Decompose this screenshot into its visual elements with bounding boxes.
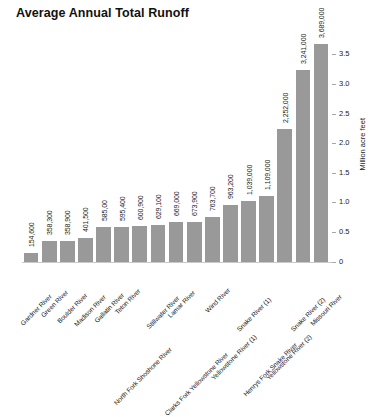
- bar-slot: 669,000: [167, 40, 185, 262]
- bar: [187, 222, 202, 262]
- bar: [314, 44, 329, 262]
- y-axis: 00.51.01.52.02.53.03.5: [332, 40, 358, 262]
- bar: [277, 129, 292, 262]
- bar: [223, 205, 238, 262]
- bar: [259, 196, 274, 262]
- bar: [205, 217, 220, 262]
- bar-value-label: 1,039,000: [246, 164, 253, 194]
- bar-value-label: 401,500: [82, 208, 89, 233]
- bar-slot: 154,600: [22, 40, 40, 262]
- y-axis-tick-label: 3.0: [339, 79, 349, 88]
- bar-slot: 629,100: [149, 40, 167, 262]
- y-axis-tick-label: 0: [339, 257, 343, 266]
- bar-value-label: 629,100: [155, 194, 162, 219]
- bar: [60, 241, 75, 262]
- bar-value-label: 763,700: [209, 186, 216, 211]
- bar-value-label: 1,109,000: [264, 160, 271, 190]
- y-axis-tick-mark: [332, 114, 336, 115]
- bar: [132, 226, 147, 262]
- y-axis-tick-mark: [332, 262, 336, 263]
- bar-value-label: 358,900: [64, 210, 71, 235]
- x-axis-label: Wind River: [204, 286, 231, 313]
- y-axis-tick-mark: [332, 232, 336, 233]
- x-axis-label: Snake River (1): [235, 296, 272, 333]
- y-axis-tick-label: 1.5: [339, 168, 349, 177]
- bar-slot: 595,400: [113, 40, 131, 262]
- y-axis-tick-mark: [332, 54, 336, 55]
- y-axis-tick-label: 2.5: [339, 109, 349, 118]
- bar-slot: 358,900: [58, 40, 76, 262]
- bar-slot: 600,900: [131, 40, 149, 262]
- bar-slot: 673,900: [185, 40, 203, 262]
- bar: [296, 70, 311, 262]
- bar-slot: 3,689,000: [312, 40, 330, 262]
- bar-value-label: 673,900: [191, 192, 198, 217]
- bar-slot: 3,241,000: [294, 40, 312, 262]
- y-axis-tick-label: 0.5: [339, 227, 349, 236]
- bar: [42, 241, 57, 262]
- bar-value-label: 595,400: [119, 196, 126, 221]
- bar-slot: 585,00: [95, 40, 113, 262]
- bar: [241, 201, 256, 263]
- bar-slot: 963,200: [221, 40, 239, 262]
- x-axis-label: Yellowstone River (2): [264, 333, 312, 381]
- y-axis-tick-mark: [332, 143, 336, 144]
- y-axis-tick-mark: [332, 84, 336, 85]
- x-axis-labels: Gardner RiverGreen RiverBoulder RiverMad…: [22, 264, 330, 360]
- bar-value-label: 154,600: [28, 222, 35, 247]
- bar-value-label: 600,900: [137, 196, 144, 221]
- bar: [78, 238, 93, 262]
- bar-value-label: 585,00: [101, 201, 108, 222]
- bar: [169, 222, 184, 262]
- bar-slot: 2,252,000: [276, 40, 294, 262]
- x-axis-label: North Fork Shoshone River: [112, 346, 173, 407]
- bar-slot: 1,039,000: [240, 40, 258, 262]
- y-axis-title: Million acre feet: [358, 118, 367, 171]
- bar: [24, 253, 39, 262]
- bar-value-label: 3,241,000: [300, 34, 307, 64]
- y-axis-tick-mark: [332, 202, 336, 203]
- bar-value-label: 3,689,000: [318, 7, 325, 37]
- x-axis-baseline: [22, 262, 332, 263]
- y-axis-tick-label: 2.0: [339, 138, 349, 147]
- bar: [96, 227, 111, 262]
- x-axis-label: Clarks Fork Yellowstone River: [164, 351, 230, 417]
- bar-slot: 1,109,000: [258, 40, 276, 262]
- bar: [114, 227, 129, 262]
- y-axis-tick-label: 1.0: [339, 197, 349, 206]
- bar-slot: 401,500: [76, 40, 94, 262]
- chart-title: Average Annual Total Runoff: [16, 6, 189, 20]
- bar-value-label: 2,252,000: [282, 92, 289, 122]
- bar-value-label: 963,200: [227, 174, 234, 199]
- plot-area: 154,600358,300358,900401,500585,00595,40…: [22, 40, 330, 262]
- bar-slot: 763,700: [203, 40, 221, 262]
- y-axis-tick-label: 3.5: [339, 49, 349, 58]
- bar: [151, 225, 166, 262]
- y-axis-tick-mark: [332, 173, 336, 174]
- bar-value-label: 358,300: [46, 210, 53, 235]
- bar-series: 154,600358,300358,900401,500585,00595,40…: [22, 40, 330, 262]
- bar-slot: 358,300: [40, 40, 58, 262]
- bar-value-label: 669,000: [173, 192, 180, 217]
